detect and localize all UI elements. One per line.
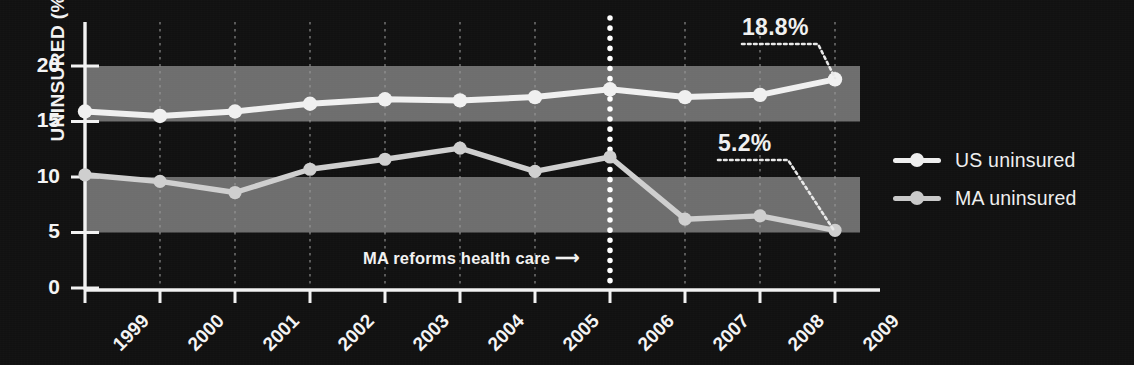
y-tick-label-0: 0 <box>16 275 60 299</box>
data-point[interactable] <box>603 150 616 163</box>
chart-legend: US uninsured MA uninsured <box>893 141 1077 217</box>
reform-annotation: MA reforms health care ⟶ <box>363 249 579 268</box>
chart-figure: UNINSURED (%) 20 15 10 5 0 1999 2000 200… <box>0 0 1134 365</box>
data-point[interactable] <box>753 209 766 222</box>
data-point[interactable] <box>528 90 542 104</box>
data-point[interactable] <box>228 104 242 118</box>
data-point[interactable] <box>828 224 841 237</box>
legend-label-ma-uninsured: MA uninsured <box>955 187 1077 210</box>
data-point[interactable] <box>453 142 466 155</box>
data-point[interactable] <box>228 186 241 199</box>
data-point[interactable] <box>453 93 467 107</box>
data-point[interactable] <box>828 72 842 86</box>
ma-2009-callout: 5.2% <box>718 130 772 157</box>
data-point[interactable] <box>378 92 392 106</box>
data-point[interactable] <box>153 175 166 188</box>
y-tick-label-15: 15 <box>16 108 60 132</box>
data-point[interactable] <box>753 88 767 102</box>
legend-marker-icon <box>893 189 941 207</box>
data-point[interactable] <box>78 168 91 181</box>
data-point[interactable] <box>153 109 167 123</box>
us-2009-callout: 18.8% <box>742 14 809 41</box>
legend-item-ma-uninsured[interactable]: MA uninsured <box>893 179 1077 217</box>
data-point[interactable] <box>78 104 92 118</box>
legend-item-us-uninsured[interactable]: US uninsured <box>893 141 1077 179</box>
x-tick-marks <box>85 290 835 303</box>
legend-marker-icon <box>893 151 941 169</box>
data-point[interactable] <box>678 90 692 104</box>
y-tick-label-20: 20 <box>16 53 60 77</box>
y-tick-label-10: 10 <box>16 164 60 188</box>
legend-label-us-uninsured: US uninsured <box>955 149 1076 172</box>
data-point[interactable] <box>678 213 691 226</box>
data-point[interactable] <box>303 163 316 176</box>
data-point[interactable] <box>378 153 391 166</box>
data-point[interactable] <box>603 82 617 96</box>
data-point[interactable] <box>303 97 317 111</box>
y-axis-title: UNINSURED (%) <box>45 0 71 175</box>
y-tick-label-5: 5 <box>16 219 60 243</box>
data-point[interactable] <box>528 165 541 178</box>
